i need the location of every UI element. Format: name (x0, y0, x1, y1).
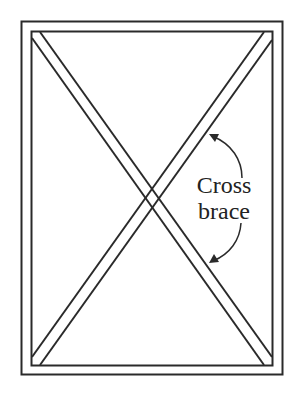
arrow-lower (209, 223, 241, 263)
label-line-2: brace (198, 198, 250, 224)
cross-brace-diagram: Cross brace (0, 0, 303, 407)
label-line-1: Cross (197, 172, 252, 198)
